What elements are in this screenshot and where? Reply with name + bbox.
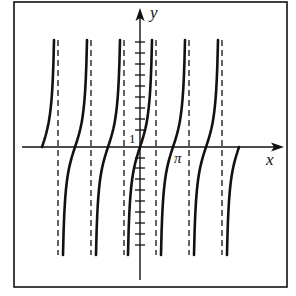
unit-label-one: 1	[129, 131, 136, 146]
x-axis-label: x	[265, 150, 274, 169]
function-graph: y x 1 π	[0, 0, 296, 296]
y-axis-label: y	[148, 3, 158, 22]
pi-label: π	[174, 150, 182, 166]
function-branch	[42, 40, 54, 147]
graph-canvas: y x 1 π	[0, 0, 296, 296]
function-branch	[227, 147, 239, 255]
